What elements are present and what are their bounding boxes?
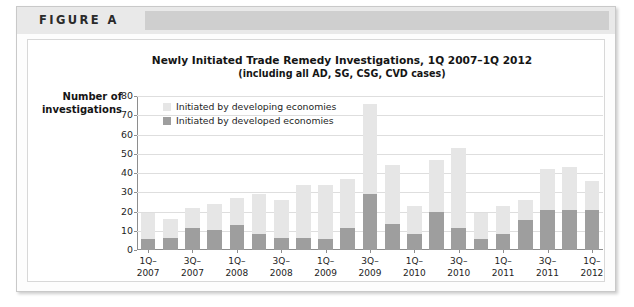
legend-item-developing: Initiated by developing economies — [163, 101, 336, 112]
x-axis-tick-label: 1Q–2011 — [480, 255, 526, 279]
bar-stack — [318, 185, 333, 250]
x-axis-tick-label: 1Q–2012 — [569, 255, 615, 279]
bar-stack — [230, 198, 245, 250]
figure-header-accent — [145, 11, 609, 30]
chart-legend: Initiated by developing economies Initia… — [163, 101, 336, 129]
bar-stack — [296, 185, 311, 250]
x-axis-tick-label-year: 2012 — [569, 267, 615, 279]
x-axis-tick — [503, 250, 504, 253]
bar-stack — [540, 169, 555, 250]
x-axis-tick — [148, 250, 149, 253]
bar-stack — [562, 167, 577, 250]
bar-stack — [496, 206, 511, 250]
bar-segment-developing — [385, 165, 400, 224]
bar-segment-developed — [585, 210, 600, 250]
bar-segment-developing — [318, 185, 333, 240]
x-axis-tick-label-quarter: 1Q– — [391, 255, 437, 267]
bar-stack — [407, 206, 422, 250]
bar-segment-developed — [340, 228, 355, 250]
figure-container: FIGURE A Newly Initiated Trade Remedy In… — [16, 6, 616, 292]
x-axis-tick-label-quarter: 3Q– — [169, 255, 215, 267]
x-axis-tick-label-quarter: 3Q– — [436, 255, 482, 267]
bar-segment-developing — [496, 206, 511, 234]
y-axis-tick-label: 10 — [105, 225, 133, 236]
x-axis-tick-label: 3Q–2011 — [525, 255, 571, 279]
x-axis-tick-label-year: 2010 — [436, 267, 482, 279]
bar-stack — [429, 160, 444, 250]
bar-segment-developing — [185, 208, 200, 228]
bar-segment-developing — [429, 160, 444, 212]
y-axis-tick — [134, 250, 137, 251]
bar-stack — [585, 181, 600, 250]
x-axis-tick — [414, 250, 415, 253]
bar-segment-developing — [340, 179, 355, 228]
bar-segment-developed — [207, 230, 222, 250]
bar-stack — [385, 165, 400, 250]
bar-stack — [274, 200, 289, 250]
bar-segment-developing — [474, 213, 489, 239]
legend-label-developed: Initiated by developed economies — [176, 115, 334, 126]
bar-segment-developing — [585, 181, 600, 210]
x-axis-tick-label-quarter: 3Q– — [258, 255, 304, 267]
x-axis-tick — [326, 250, 327, 253]
bar-segment-developing — [207, 204, 222, 230]
x-axis-tick — [548, 250, 549, 253]
bar-segment-developed — [385, 224, 400, 250]
x-axis-tick-label-quarter: 1Q– — [569, 255, 615, 267]
bar-segment-developed — [163, 238, 178, 251]
bar-segment-developed — [363, 194, 378, 250]
y-axis-tick-label: 0 — [105, 244, 133, 255]
bar-segment-developing — [252, 194, 267, 233]
bar-segment-developed — [496, 234, 511, 250]
x-axis-tick-label-quarter: 1Q– — [480, 255, 526, 267]
x-axis-tick-label-quarter: 1Q– — [214, 255, 260, 267]
bar-stack — [474, 213, 489, 250]
x-axis-tick-label-year: 2009 — [303, 267, 349, 279]
bar-segment-developed — [185, 228, 200, 250]
bar-stack — [207, 204, 222, 250]
x-axis-tick-label-year: 2008 — [258, 267, 304, 279]
x-axis-tick-label-year: 2011 — [480, 267, 526, 279]
figure-label: FIGURE A — [39, 13, 119, 27]
bar-stack — [185, 208, 200, 250]
x-axis-tick-label: 1Q–2010 — [391, 255, 437, 279]
y-axis-tick-label: 50 — [105, 148, 133, 159]
y-axis-tick-label: 30 — [105, 186, 133, 197]
x-axis-tick-label-year: 2009 — [347, 267, 393, 279]
bar-stack — [518, 200, 533, 250]
x-axis-tick-label-quarter: 1Q– — [303, 255, 349, 267]
x-axis-tick — [592, 250, 593, 253]
x-axis-tick-label: 3Q–2009 — [347, 255, 393, 279]
bar-stack — [451, 148, 466, 250]
bar-segment-developing — [518, 200, 533, 220]
legend-swatch-developing-icon — [163, 103, 171, 111]
bar-segment-developing — [296, 185, 311, 238]
bar-stack — [163, 219, 178, 250]
x-axis-tick-label-year: 2010 — [391, 267, 437, 279]
bar-segment-developing — [141, 213, 156, 239]
bar-segment-developed — [429, 212, 444, 251]
chart-title: Newly Initiated Trade Remedy Investigati… — [88, 54, 596, 68]
chart-panel: Newly Initiated Trade Remedy Investigati… — [27, 39, 605, 282]
x-axis-tick — [237, 250, 238, 253]
x-axis-tick-label-quarter: 3Q– — [525, 255, 571, 267]
bar-stack — [340, 179, 355, 250]
bar-segment-developing — [407, 206, 422, 234]
bar-segment-developed — [407, 234, 422, 250]
bar-segment-developing — [562, 167, 577, 209]
legend-item-developed: Initiated by developed economies — [163, 115, 336, 126]
x-axis-tick-label-year: 2008 — [214, 267, 260, 279]
figure-header-band: FIGURE A — [17, 7, 615, 34]
x-axis-tick-label: 3Q–2007 — [169, 255, 215, 279]
legend-label-developing: Initiated by developing economies — [176, 101, 336, 112]
bar-segment-developing — [451, 148, 466, 228]
x-axis-tick-label-year: 2011 — [525, 267, 571, 279]
bar-segment-developed — [318, 239, 333, 250]
x-axis-tick-label: 1Q–2008 — [214, 255, 260, 279]
bar-segment-developed — [540, 210, 555, 250]
bar-segment-developing — [363, 104, 378, 194]
y-axis-tick-label: 60 — [105, 129, 133, 140]
bar-segment-developed — [518, 220, 533, 250]
legend-swatch-developed-icon — [163, 117, 171, 125]
x-axis-tick — [370, 250, 371, 253]
